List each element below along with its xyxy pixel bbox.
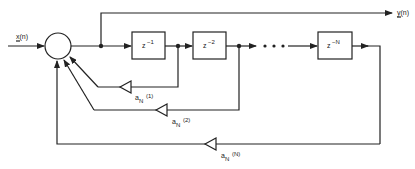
input-signal: x(n) — [8, 33, 44, 46]
block-diagram: x(n) y(n) z −1 z −2 z −N — [0, 0, 415, 169]
svg-text:z: z — [142, 42, 146, 49]
output-label: y(n) — [397, 9, 409, 17]
delay-block-n: z −N — [318, 32, 352, 59]
svg-text:(2): (2) — [183, 117, 190, 123]
summing-junction — [45, 33, 71, 59]
svg-text:(1): (1) — [146, 93, 153, 99]
gain-triangle-2 — [156, 104, 167, 116]
svg-text:z: z — [327, 42, 331, 49]
gain-triangle-1 — [120, 81, 131, 93]
svg-text:−N: −N — [332, 39, 340, 45]
feedback-path-n: a N (N) — [57, 61, 380, 162]
input-label: x(n) — [16, 33, 28, 41]
svg-text:N: N — [176, 122, 180, 128]
svg-text:−1: −1 — [147, 39, 155, 45]
svg-text:N: N — [225, 156, 229, 162]
ellipsis-dots — [263, 44, 284, 47]
delay-block-1: z −1 — [132, 32, 165, 59]
svg-text:−2: −2 — [208, 39, 216, 45]
svg-text:z: z — [203, 42, 207, 49]
svg-text:(N): (N) — [232, 151, 240, 157]
gain-triangle-n — [205, 138, 216, 150]
svg-text:N: N — [139, 98, 143, 104]
tap-wire-n — [366, 46, 380, 144]
delay-block-2: z −2 — [193, 32, 226, 59]
